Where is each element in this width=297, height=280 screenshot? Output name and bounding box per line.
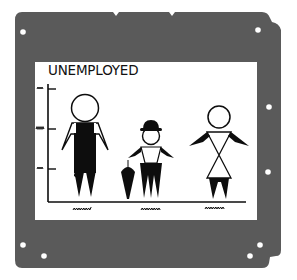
mount-hole xyxy=(257,242,263,248)
slide-svg xyxy=(0,0,297,280)
mount-hole xyxy=(255,27,261,33)
mount-hole xyxy=(20,242,26,248)
mount-hole xyxy=(20,29,26,35)
chart-title: UNEMPLOYED xyxy=(48,64,138,78)
mount-hole xyxy=(266,104,272,110)
mount-hole xyxy=(265,169,271,175)
mount-hole xyxy=(41,253,47,259)
slide-mount: UNEMPLOYED xyxy=(0,0,297,280)
mount-hole xyxy=(247,253,253,259)
